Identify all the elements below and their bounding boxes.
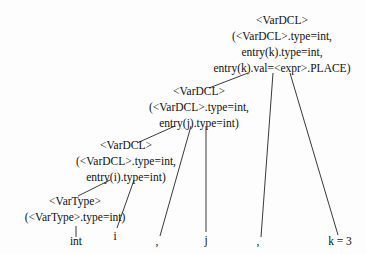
node-low-vardcl: <VarDCL> (<VarDCL>.type=int, entry(i).ty… bbox=[76, 139, 176, 184]
edge-root-k3 bbox=[290, 73, 338, 235]
leaf-comma-1: , bbox=[156, 235, 159, 248]
node-label: <VarDCL> bbox=[100, 139, 152, 151]
node-label: <VarType> bbox=[49, 195, 101, 208]
annotated-parse-tree: <VarDCL> (<VarDCL>.type=int, entry(k).ty… bbox=[0, 0, 366, 254]
leaf-k-equals-3: k = 3 bbox=[328, 235, 352, 247]
node-vartype: <VarType> (<VarType>.type=int) bbox=[25, 195, 126, 224]
node-label: <VarDCL> bbox=[256, 14, 308, 26]
leaf-j: j bbox=[203, 234, 207, 247]
node-label: <VarDCL> bbox=[173, 85, 225, 97]
node-attr: entry(k).type=int, bbox=[241, 46, 322, 59]
leaf-i: i bbox=[113, 230, 116, 242]
node-attr: entry(k).val=<expr>.PLACE) bbox=[214, 62, 351, 75]
leaf-tokens: int i , j , k = 3 bbox=[70, 230, 352, 248]
edge-root-comma2 bbox=[261, 73, 273, 237]
node-attr: entry(i).type=int) bbox=[86, 171, 166, 184]
node-attr: entry(j).type=int) bbox=[159, 117, 239, 130]
tree-svg: <VarDCL> (<VarDCL>.type=int, entry(k).ty… bbox=[0, 0, 366, 254]
node-root-vardcl: <VarDCL> (<VarDCL>.type=int, entry(k).ty… bbox=[214, 14, 351, 75]
node-attr: (<VarDCL>.type=int, bbox=[232, 30, 332, 43]
node-mid-vardcl: <VarDCL> (<VarDCL>.type=int, entry(j).ty… bbox=[149, 85, 249, 130]
leaf-comma-2: , bbox=[257, 235, 260, 248]
leaf-int: int bbox=[70, 235, 83, 247]
node-attr: (<VarDCL>.type=int, bbox=[149, 101, 249, 114]
node-attr: (<VarDCL>.type=int, bbox=[76, 155, 176, 168]
node-attr: (<VarType>.type=int) bbox=[25, 211, 126, 224]
